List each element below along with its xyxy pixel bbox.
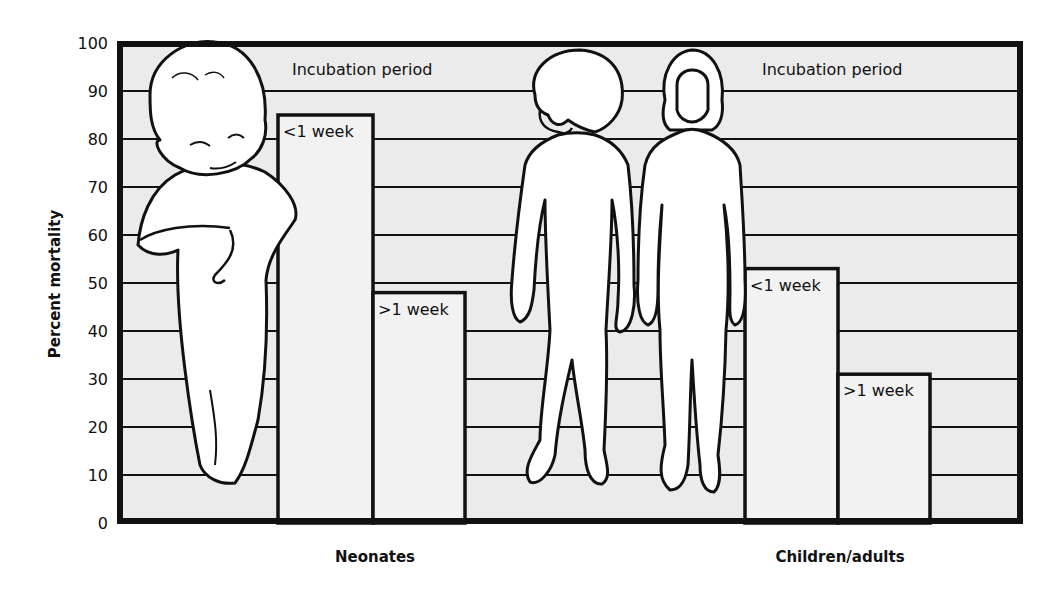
y-tick-label: 70 bbox=[88, 178, 108, 197]
bar-neonates-under-1-week bbox=[278, 115, 373, 523]
incubation-period-annotation-left: Incubation period bbox=[292, 60, 432, 79]
bar-label: <1 week bbox=[750, 276, 821, 295]
bar-label: >1 week bbox=[378, 300, 449, 319]
incubation-period-annotation-right: Incubation period bbox=[762, 60, 902, 79]
y-tick-label: 40 bbox=[88, 322, 108, 341]
y-tick-label: 60 bbox=[88, 226, 108, 245]
bar-children-adults-under-1-week bbox=[745, 269, 838, 523]
y-tick-label: 50 bbox=[88, 274, 108, 293]
y-tick-label: 100 bbox=[77, 34, 108, 53]
chart: <1 week>1 week<1 week>1 week 010203040 bbox=[0, 0, 1064, 592]
y-tick-label: 90 bbox=[88, 82, 108, 101]
group-label-neonates: Neonates bbox=[335, 548, 415, 566]
bar-neonates-over-1-week bbox=[373, 293, 465, 523]
bar-label: >1 week bbox=[843, 381, 914, 400]
bar-label: <1 week bbox=[283, 122, 354, 141]
group-label-children-adults: Children/adults bbox=[775, 548, 904, 566]
y-axis-ticks: 0102030405060708090100 bbox=[77, 34, 108, 533]
y-axis-label: Percent mortality bbox=[46, 210, 64, 359]
y-tick-label: 80 bbox=[88, 130, 108, 149]
y-tick-label: 10 bbox=[88, 466, 108, 485]
y-tick-label: 0 bbox=[98, 514, 108, 533]
y-tick-label: 30 bbox=[88, 370, 108, 389]
y-tick-label: 20 bbox=[88, 418, 108, 437]
